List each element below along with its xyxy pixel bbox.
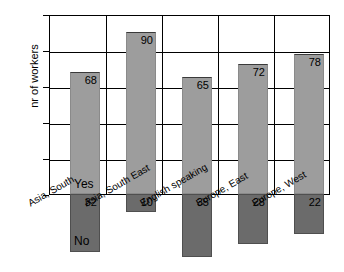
gridline-x-3 bbox=[218, 16, 219, 194]
bar-segment-no[interactable]: 22 bbox=[294, 194, 324, 234]
bar-value-no: 22 bbox=[309, 196, 321, 208]
gridline-x-1 bbox=[106, 16, 107, 194]
gridline-y-80 bbox=[50, 52, 329, 53]
gridline-x-4 bbox=[274, 16, 275, 194]
bar-value-yes: 90 bbox=[141, 34, 153, 46]
bar-value-yes: 72 bbox=[253, 66, 265, 78]
stacked-bar-chart: nr of workers 100 80 60 40 20 0 32 No 68 bbox=[0, 0, 344, 272]
series-label-no: No bbox=[74, 235, 89, 248]
y-axis-title: nr of workers bbox=[28, 6, 40, 146]
bar-value-yes: 68 bbox=[85, 74, 97, 86]
bar-segment-yes[interactable]: 68 Yes bbox=[70, 72, 100, 194]
gridline-x-2 bbox=[162, 16, 163, 194]
bar-value-yes: 65 bbox=[197, 79, 209, 91]
bar-value-yes: 78 bbox=[309, 56, 321, 68]
series-label-yes: Yes bbox=[74, 178, 94, 191]
